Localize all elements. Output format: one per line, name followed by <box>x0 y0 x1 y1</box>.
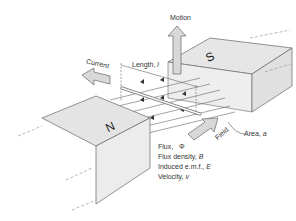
legend-text: Flux, <box>158 143 173 150</box>
legend-symbol: v <box>186 173 190 180</box>
north-magnet <box>18 96 150 210</box>
current-arrow <box>82 68 110 85</box>
length-text: Length, <box>132 61 157 68</box>
south-magnet <box>168 30 292 112</box>
area-text: Area, <box>244 130 263 137</box>
length-symbol: l <box>157 61 159 68</box>
legend-symbol: Φ <box>179 143 185 150</box>
legend-text: Induced e.m.f., <box>158 163 206 170</box>
legend-text: Flux density, <box>158 153 199 160</box>
legend-item-velocity: Velocity, v <box>158 173 211 180</box>
legend-symbol: B <box>199 153 204 160</box>
area-symbol: a <box>263 130 267 137</box>
area-leader-line <box>228 122 245 134</box>
legend-text: Velocity, <box>158 173 186 180</box>
diagram-canvas <box>0 0 296 221</box>
motion-label: Motion <box>170 14 191 21</box>
legend-symbol: E <box>206 163 211 170</box>
legend-item-flux-density: Flux density, B <box>158 153 211 160</box>
induction-diagram: S N Motion Current Field Length, l Area,… <box>0 0 296 221</box>
legend-item-flux: Flux, Φ <box>158 143 211 150</box>
area-label: Area, a <box>244 130 267 137</box>
length-label: Length, l <box>132 61 159 68</box>
legend: Flux, Φ Flux density, B Induced e.m.f., … <box>158 143 211 180</box>
legend-item-emf: Induced e.m.f., E <box>158 163 211 170</box>
